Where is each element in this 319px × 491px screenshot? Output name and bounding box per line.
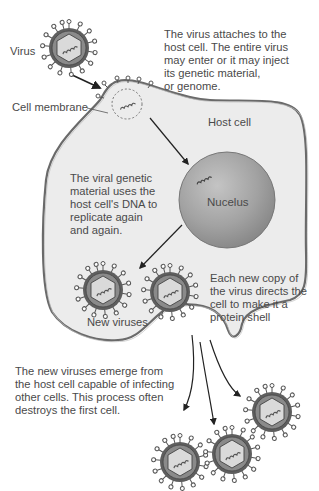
host-cell-label: Host cell	[208, 116, 251, 129]
caption-replicate: The viral genetic material uses the host…	[70, 172, 157, 237]
released-virus-icon	[203, 426, 260, 483]
caption-emerge: The new viruses emerge from the host cel…	[15, 365, 174, 417]
caption-protein-shell: Each new copy of the virus directs the c…	[210, 272, 307, 324]
nucleus-label: Nucelus	[207, 196, 249, 209]
cell-membrane-label: Cell membrane	[12, 101, 88, 114]
virus-label: Virus	[10, 45, 35, 58]
caption-attach: The virus attaches to the host cell. The…	[164, 28, 289, 93]
released-virus-icon	[151, 434, 208, 491]
new-viruses-label: New viruses	[87, 316, 148, 329]
released-virus-icon	[243, 384, 300, 441]
virus-icon	[40, 20, 97, 77]
